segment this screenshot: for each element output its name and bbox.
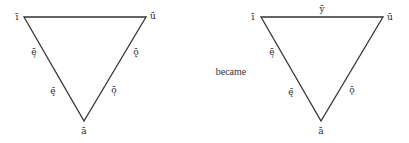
after-vertex-top-left: ī: [252, 13, 255, 22]
before-right-edge-upper: ǭ̣: [133, 48, 138, 57]
before-left-edge-lower: ę̄: [50, 87, 55, 96]
after-triangle: [261, 17, 383, 121]
triangle-lines: [0, 0, 409, 143]
after-top-edge: ȳ: [319, 5, 324, 14]
before-triangle: [24, 17, 146, 121]
became-label: became: [216, 67, 247, 77]
after-vertex-top-right: ū: [387, 13, 393, 22]
vowel-diagram: ī ū ā ē̜ ę̄ ǭ̣ ō̜ became ī ū ā ȳ ē̜ ę̄ ǭ: [0, 0, 409, 143]
after-left-edge-upper: ē̜: [269, 48, 274, 57]
after-vertex-bottom: ā: [318, 127, 323, 136]
before-vertex-top-right: ū: [150, 12, 156, 21]
after-left-edge-lower: ę̄: [288, 88, 293, 97]
before-vertex-bottom: ā: [81, 127, 86, 136]
before-vertex-top-left: ī: [16, 13, 19, 22]
before-left-edge-upper: ē̜: [31, 48, 36, 57]
before-right-edge-lower: ō̜: [111, 86, 116, 95]
after-right-edge-lower: ǭ: [349, 86, 354, 95]
